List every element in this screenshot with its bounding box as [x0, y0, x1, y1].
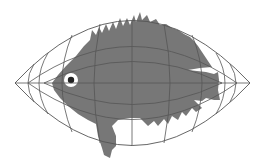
- diagram-canvas: Fish drawn on a curved projection grid: [0, 0, 265, 168]
- fish-eye: [64, 73, 78, 87]
- fish-projection-diagram: [0, 0, 265, 168]
- pupil-icon: [68, 77, 74, 83]
